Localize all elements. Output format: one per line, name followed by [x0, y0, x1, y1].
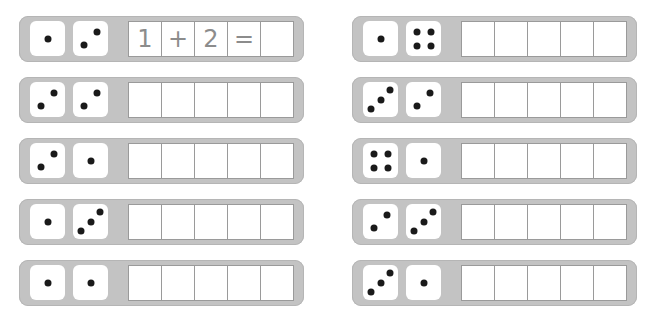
answer-cell[interactable] [261, 83, 293, 117]
answer-cell[interactable] [228, 205, 261, 239]
answer-cell[interactable] [594, 266, 626, 300]
pip-icon [427, 42, 434, 49]
answer-cell[interactable] [495, 22, 528, 56]
answer-cell[interactable] [561, 205, 594, 239]
pip-icon [427, 28, 434, 35]
pip-icon [87, 218, 94, 225]
answer-cell[interactable] [462, 205, 495, 239]
pip-icon [420, 279, 427, 286]
answer-cell[interactable] [528, 144, 561, 178]
answer-cell[interactable] [195, 266, 228, 300]
answer-cell[interactable] [129, 144, 162, 178]
pip-icon [386, 270, 393, 277]
pip-icon [93, 90, 100, 97]
pip-icon [87, 157, 94, 164]
answer-cell[interactable] [261, 266, 293, 300]
problem-strip [352, 199, 637, 245]
problem-strip [19, 260, 304, 306]
answer-boxes [128, 82, 294, 118]
die-face-1 [406, 265, 441, 300]
pip-icon [384, 150, 391, 157]
answer-cell[interactable] [228, 83, 261, 117]
answer-cell[interactable] [528, 266, 561, 300]
answer-cell[interactable] [162, 144, 195, 178]
answer-cell[interactable] [162, 266, 195, 300]
answer-cell[interactable]: = [228, 22, 261, 56]
answer-cell[interactable] [528, 205, 561, 239]
problem-strip [352, 260, 637, 306]
answer-cell[interactable] [495, 205, 528, 239]
pip-icon [50, 151, 57, 158]
pip-icon [368, 288, 375, 295]
answer-boxes [128, 265, 294, 301]
pip-icon [87, 279, 94, 286]
answer-cell[interactable] [228, 266, 261, 300]
answer-cell[interactable] [261, 144, 293, 178]
die-face-2 [363, 204, 398, 239]
die-face-2 [406, 82, 441, 117]
answer-cell[interactable]: + [162, 22, 195, 56]
pip-icon [93, 29, 100, 36]
answer-cell[interactable] [129, 205, 162, 239]
answer-cell[interactable] [495, 144, 528, 178]
answer-cell[interactable]: 1 [129, 22, 162, 56]
answer-boxes [128, 204, 294, 240]
answer-cell[interactable] [495, 83, 528, 117]
die-face-3 [363, 265, 398, 300]
pip-icon [383, 212, 390, 219]
pip-icon [44, 218, 51, 225]
answer-cell[interactable] [261, 22, 293, 56]
answer-cell[interactable] [594, 205, 626, 239]
answer-cell[interactable] [561, 144, 594, 178]
pip-icon [50, 90, 57, 97]
answer-cell[interactable] [162, 83, 195, 117]
answer-cell[interactable] [462, 83, 495, 117]
die-face-1 [30, 21, 65, 56]
answer-cell[interactable] [195, 144, 228, 178]
answer-cell[interactable] [162, 205, 195, 239]
pip-icon [78, 227, 85, 234]
pip-icon [420, 157, 427, 164]
die-face-3 [73, 204, 108, 239]
pip-icon [44, 279, 51, 286]
answer-cell[interactable] [561, 266, 594, 300]
answer-cell[interactable] [594, 144, 626, 178]
pip-icon [429, 209, 436, 216]
answer-cell[interactable] [528, 83, 561, 117]
die-face-1 [406, 143, 441, 178]
answer-cell[interactable] [129, 266, 162, 300]
die-face-1 [363, 21, 398, 56]
pip-icon [368, 105, 375, 112]
answer-cell[interactable] [195, 83, 228, 117]
pip-icon [370, 150, 377, 157]
answer-boxes [461, 82, 627, 118]
pip-icon [426, 90, 433, 97]
answer-cell[interactable] [195, 205, 228, 239]
answer-cell[interactable] [561, 83, 594, 117]
answer-cell[interactable] [462, 266, 495, 300]
pip-icon [38, 102, 45, 109]
answer-cell[interactable] [462, 144, 495, 178]
answer-cell[interactable] [594, 22, 626, 56]
pip-icon [371, 224, 378, 231]
answer-cell[interactable] [594, 83, 626, 117]
answer-cell[interactable] [495, 266, 528, 300]
answer-cell[interactable] [462, 22, 495, 56]
pip-icon [370, 164, 377, 171]
pip-icon [411, 227, 418, 234]
answer-cell[interactable] [129, 83, 162, 117]
answer-cell[interactable] [561, 22, 594, 56]
answer-cell[interactable]: 2 [195, 22, 228, 56]
die-face-2 [73, 21, 108, 56]
answer-cell[interactable] [528, 22, 561, 56]
problem-strip [352, 138, 637, 184]
pip-icon [81, 41, 88, 48]
pip-icon [377, 96, 384, 103]
answer-boxes [461, 21, 627, 57]
pip-icon [377, 279, 384, 286]
pip-icon [96, 209, 103, 216]
pip-icon [414, 102, 421, 109]
answer-boxes: 1+2= [128, 21, 294, 57]
answer-cell[interactable] [228, 144, 261, 178]
answer-cell[interactable] [261, 205, 293, 239]
